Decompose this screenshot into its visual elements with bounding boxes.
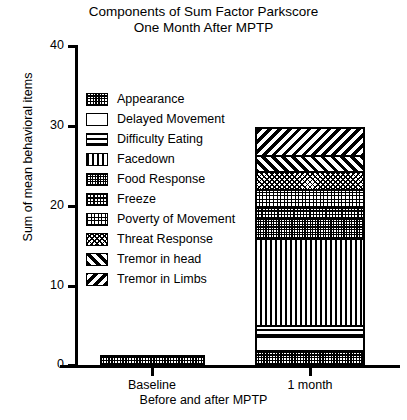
legend-item-delayed-movement: Delayed Movement (86, 109, 235, 129)
legend-swatch-freeze-icon (86, 193, 108, 206)
legend-item-threat-response: Threat Response (86, 229, 235, 249)
bar-segment-1month-appearance (255, 351, 365, 365)
y-tick-30 (68, 125, 77, 128)
legend-item-poverty-of-movement: Poverty of Movement (86, 209, 235, 229)
legend-swatch-difficulty-eating-icon (86, 133, 108, 146)
chart-figure: Components of Sum Factor Parkscore One M… (0, 0, 407, 420)
bar-segment-1month-poverty-of-movement (255, 190, 365, 208)
y-tick-label-0: 0 (18, 358, 64, 370)
legend-swatch-appearance-icon (86, 93, 108, 106)
legend-item-freeze: Freeze (86, 189, 235, 209)
y-tick-0 (68, 364, 77, 367)
y-tick-40 (68, 45, 77, 48)
bar-baseline (100, 355, 205, 365)
legend-item-tremor-in-head: Tremor in head (86, 249, 235, 269)
legend-label-tremor-in-head: Tremor in head (117, 253, 201, 266)
legend-swatch-delayed-movement-icon (86, 113, 108, 126)
legend-label-delayed-movement: Delayed Movement (117, 113, 225, 126)
bar-segment-1month-freeze (255, 208, 365, 219)
y-tick-label-30: 30 (18, 119, 64, 131)
legend-label-difficulty-eating: Difficulty Eating (117, 133, 203, 146)
legend-item-appearance: Appearance (86, 89, 235, 109)
legend-label-facedown: Facedown (117, 153, 175, 166)
legend-item-tremor-in-limbs: Tremor in Limbs (86, 269, 235, 289)
x-tick-baseline (151, 367, 154, 376)
legend-swatch-food-response-icon (86, 173, 108, 186)
x-tick-label-1-month: 1 month (250, 378, 370, 392)
legend-label-poverty-of-movement: Poverty of Movement (117, 213, 235, 226)
x-axis-line (60, 365, 400, 368)
legend-label-appearance: Appearance (117, 93, 184, 106)
legend-item-facedown: Facedown (86, 149, 235, 169)
legend-item-difficulty-eating: Difficulty Eating (86, 129, 235, 149)
bar-segment-1month-food-response (255, 219, 365, 239)
legend-label-food-response: Food Response (117, 173, 205, 186)
y-tick-10 (68, 285, 77, 288)
legend-swatch-threat-response-icon (86, 233, 108, 246)
legend-label-freeze: Freeze (117, 193, 156, 206)
legend-item-food-response: Food Response (86, 169, 235, 189)
bar-segment-1month-tremor-in-limbs (255, 127, 365, 156)
y-tick-label-10: 10 (18, 279, 64, 291)
x-tick-label-baseline: Baseline (92, 378, 212, 392)
legend-swatch-poverty-of-movement-icon (86, 213, 108, 226)
bar-segment-1month-tremor-in-head (255, 156, 365, 172)
legend-swatch-tremor-in-limbs-icon (86, 273, 108, 286)
bar-segment-1month-difficulty-eating (255, 326, 365, 337)
bar-segment-1month-delayed-movement (255, 337, 365, 351)
legend-label-tremor-in-limbs: Tremor in Limbs (117, 273, 207, 286)
legend-swatch-tremor-in-head-icon (86, 253, 108, 266)
bar-segment-1month-facedown (255, 239, 365, 326)
y-tick-label-20: 20 (18, 199, 64, 211)
legend-swatch-facedown-icon (86, 153, 108, 166)
bar-segment-baseline-appearance (100, 355, 205, 365)
y-tick-20 (68, 205, 77, 208)
chart-legend: Appearance Delayed Movement Difficulty E… (86, 89, 235, 289)
legend-label-threat-response: Threat Response (117, 233, 213, 246)
bar-segment-1month-threat-response (255, 172, 365, 190)
x-tick-1-month (309, 367, 312, 376)
bar-1-month (255, 127, 365, 365)
y-tick-label-40: 40 (18, 39, 64, 51)
